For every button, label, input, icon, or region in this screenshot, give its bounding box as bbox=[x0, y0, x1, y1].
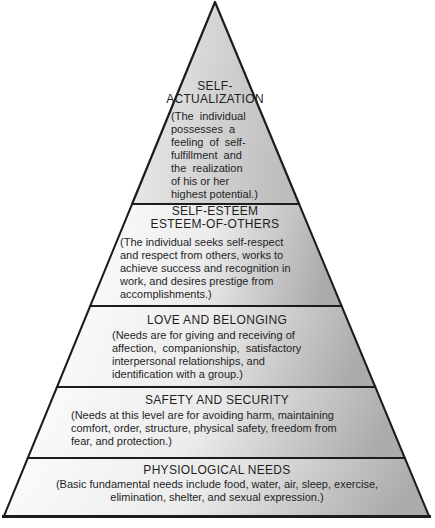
level-5-description: (Basic fundamental needs include food, w… bbox=[37, 478, 397, 504]
level-4-description: (Needs at this level are for avoiding ha… bbox=[71, 409, 361, 448]
level-3-description: (Needs are for giving and receiving of a… bbox=[112, 329, 327, 381]
level-1-description: (The individual possesses a feeling of s… bbox=[171, 110, 283, 201]
level-2-title: SELF-ESTEEM ESTEEM-OF-OTHERS bbox=[115, 205, 315, 231]
level-5-title: PHYSIOLOGICAL NEEDS bbox=[117, 464, 317, 477]
maslow-pyramid-diagram: SELF- ACTUALIZATION (The individual poss… bbox=[0, 0, 435, 528]
level-1-title: SELF- ACTUALIZATION bbox=[140, 80, 290, 106]
level-4-title: SAFETY AND SECURITY bbox=[117, 394, 317, 407]
level-2-description: (The individual seeks self-respect and r… bbox=[120, 236, 320, 301]
level-3-title: LOVE AND BELONGING bbox=[117, 314, 317, 327]
